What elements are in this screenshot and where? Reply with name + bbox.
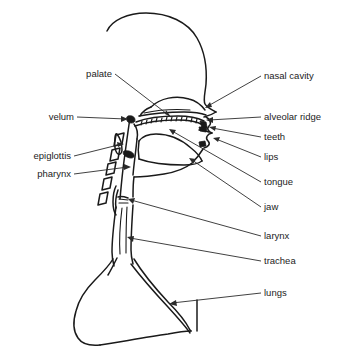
head-outline-group: [107, 13, 216, 117]
lung-left-outline-path: [74, 259, 113, 345]
nasal-cavity-group: [139, 110, 206, 116]
label-tongue: tongue: [264, 176, 293, 187]
pharynx-back-wall-path: [120, 118, 130, 199]
label-palate: palate: [86, 68, 112, 79]
label-epiglottis: epiglottis: [34, 150, 72, 161]
label-teeth: teeth: [264, 131, 285, 142]
jaw-lower-path: [133, 177, 134, 197]
tooth-mark: [161, 118, 162, 122]
leader-teeth: [209, 126, 261, 137]
velum-shape: [127, 116, 136, 123]
leader-tongue: [169, 129, 261, 182]
tongue-surface-path: [139, 134, 202, 161]
label-nasal-cavity: nasal cavity: [264, 70, 314, 81]
label-trachea: trachea: [264, 255, 296, 266]
vertebra: [98, 192, 108, 205]
leader-trachea: [127, 236, 261, 261]
palate-lower-edge-path: [135, 120, 203, 126]
leader-nasal-cavity: [205, 76, 261, 108]
vertebra: [110, 148, 120, 161]
leader-alveolar-ridge: [206, 117, 261, 123]
trachea-right-wall-path: [131, 205, 133, 264]
trachea-inner-left-path: [120, 208, 122, 254]
label-lips: lips: [264, 151, 279, 162]
trachea-group: [112, 205, 133, 266]
label-text-group: palate velum epiglottis pharynx nasal ca…: [34, 68, 322, 298]
lung-bottom-path: [100, 331, 191, 345]
label-velum: velum: [49, 111, 74, 122]
skull-outline-path: [107, 13, 216, 112]
lung-right-outline-path: [134, 259, 191, 331]
larynx-left-wall-path: [116, 190, 118, 208]
leader-velum: [77, 116, 128, 122]
leader-lips: [213, 137, 261, 157]
epiglottis-group: [115, 134, 135, 158]
bronchus-right-path: [131, 264, 190, 333]
tongue-root-path: [138, 141, 139, 159]
label-alveolar-ridge: alveolar ridge: [264, 111, 321, 122]
lungs-group: [74, 258, 197, 345]
vocal-tract-diagram: palate velum epiglottis pharynx nasal ca…: [0, 0, 347, 360]
leader-jaw: [189, 158, 261, 207]
trachea-inner-right-path: [126, 207, 127, 253]
lower-teeth-shape: [199, 141, 206, 147]
anatomy-illustration: palate velum epiglottis pharynx nasal ca…: [0, 0, 347, 360]
label-lungs: lungs: [264, 287, 287, 298]
label-pharynx: pharynx: [37, 168, 71, 179]
trachea-left-wall-path: [112, 207, 116, 266]
leader-larynx: [128, 198, 261, 236]
label-larynx: larynx: [264, 230, 290, 241]
label-jaw: jaw: [263, 201, 278, 212]
vertebra: [102, 177, 112, 190]
jaw-group: [133, 141, 206, 197]
pharynx-group: [120, 118, 137, 199]
leader-palate: [115, 74, 171, 117]
leader-lungs: [169, 293, 261, 306]
vocal-folds-upper-path: [119, 199, 128, 200]
